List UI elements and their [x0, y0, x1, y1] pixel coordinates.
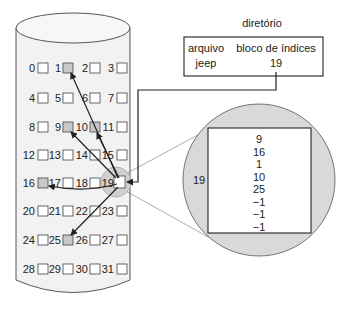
disk-block-7[interactable] — [117, 93, 127, 103]
block-number-7: 7 — [108, 92, 114, 104]
block-number-21: 21 — [49, 205, 61, 217]
block-number-18: 18 — [76, 177, 88, 189]
disk-block-13[interactable] — [63, 150, 73, 160]
index-entry: −1 — [253, 221, 266, 233]
disk-block-4[interactable] — [38, 93, 48, 103]
directory-title: diretório — [242, 17, 282, 29]
directory-header-index-block: bloco de índices — [236, 42, 316, 54]
disk-block-31[interactable] — [117, 264, 127, 274]
disk-block-26[interactable] — [90, 235, 100, 245]
directory-index-block-value: 19 — [270, 57, 282, 69]
block-number-25: 25 — [49, 234, 61, 246]
block-number-9: 9 — [55, 121, 61, 133]
block-number-31: 31 — [102, 263, 114, 275]
disk-block-9[interactable] — [63, 122, 73, 132]
block-number-8: 8 — [29, 121, 35, 133]
disk-block-27[interactable] — [117, 235, 127, 245]
disk-block-12[interactable] — [38, 150, 48, 160]
index-entry: 1 — [256, 158, 262, 170]
block-number-22: 22 — [76, 205, 88, 217]
block-number-1: 1 — [55, 62, 61, 74]
disk-block-28[interactable] — [38, 264, 48, 274]
block-number-20: 20 — [23, 205, 35, 217]
disk-block-6[interactable] — [90, 93, 100, 103]
disk-block-24[interactable] — [38, 235, 48, 245]
index-entry: −1 — [253, 196, 266, 208]
block-number-10: 10 — [76, 121, 88, 133]
disk-block-0[interactable] — [38, 63, 48, 73]
disk-block-1[interactable] — [63, 63, 73, 73]
index-entries: 91611025−1−1−1 — [253, 133, 266, 233]
block-number-29: 29 — [49, 263, 61, 275]
block-number-24: 24 — [23, 234, 35, 246]
disk-block-15[interactable] — [117, 150, 127, 160]
disk-top-ellipse — [16, 13, 130, 43]
block-number-5: 5 — [55, 92, 61, 104]
directory-header-file: arquivo — [188, 42, 224, 54]
block-number-26: 26 — [76, 234, 88, 246]
index-entry: 16 — [253, 146, 265, 158]
block-number-11: 11 — [103, 121, 114, 133]
disk-block-21[interactable] — [63, 206, 73, 216]
disk-block-18[interactable] — [90, 178, 100, 188]
block-number-13: 13 — [49, 149, 61, 161]
index-block-label: 19 — [193, 174, 205, 186]
block-number-23: 23 — [102, 205, 114, 217]
index-entry: 10 — [253, 171, 265, 183]
disk-block-23[interactable] — [117, 206, 127, 216]
disk-block-29[interactable] — [63, 264, 73, 274]
block-number-27: 27 — [102, 234, 114, 246]
disk-block-5[interactable] — [63, 93, 73, 103]
block-number-4: 4 — [29, 92, 35, 104]
disk-block-17[interactable] — [63, 178, 73, 188]
disk-block-25[interactable] — [63, 235, 73, 245]
disk-block-8[interactable] — [38, 122, 48, 132]
block-number-16: 16 — [23, 177, 35, 189]
block-number-30: 30 — [76, 263, 88, 275]
disk-block-2[interactable] — [90, 63, 100, 73]
block-number-12: 12 — [23, 149, 35, 161]
indexed-allocation-diagram: 0123456789101112131415161718192021222324… — [0, 0, 339, 311]
block-number-28: 28 — [23, 263, 35, 275]
index-entry: 9 — [256, 133, 262, 145]
disk-block-20[interactable] — [38, 206, 48, 216]
disk-block-14[interactable] — [90, 150, 100, 160]
directory-file-name[interactable]: jeep — [195, 57, 217, 69]
index-entry: 25 — [253, 183, 265, 195]
block-number-0: 0 — [29, 62, 35, 74]
block-number-2: 2 — [82, 62, 88, 74]
block-number-3: 3 — [108, 62, 114, 74]
disk-block-3[interactable] — [117, 63, 127, 73]
disk-block-16[interactable] — [38, 178, 48, 188]
disk-block-11[interactable] — [117, 122, 127, 132]
block-number-14: 14 — [76, 149, 88, 161]
disk-block-30[interactable] — [90, 264, 100, 274]
index-entry: −1 — [253, 208, 266, 220]
